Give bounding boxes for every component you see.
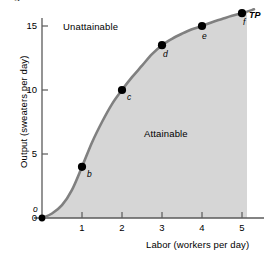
unattainable-region-label: Unattainable bbox=[63, 22, 118, 32]
data-point-e bbox=[198, 22, 206, 30]
data-point-c bbox=[118, 86, 126, 94]
x-tick-label-5: 5 bbox=[235, 223, 249, 233]
y-tick-label-0: 0 bbox=[19, 213, 37, 223]
data-point-d bbox=[158, 41, 166, 49]
data-point-label-f: f bbox=[243, 18, 245, 27]
x-tick-label-2: 2 bbox=[115, 223, 129, 233]
x-axis-title: Labor (workers per day) bbox=[146, 240, 249, 250]
chart-canvas bbox=[0, 0, 274, 258]
y-tick-label-5: 5 bbox=[19, 149, 37, 159]
data-point-b bbox=[78, 163, 86, 171]
total-product-curve-figure: g Output (sweaters per day) Labor (worke… bbox=[0, 0, 274, 258]
attainable-region-label: Attainable bbox=[144, 129, 188, 139]
data-point-label-b: b bbox=[87, 170, 92, 179]
y-tick-label-15: 15 bbox=[19, 21, 37, 31]
x-tick-label-3: 3 bbox=[155, 223, 169, 233]
tp-series-label: TP bbox=[249, 11, 261, 20]
x-tick-label-4: 4 bbox=[195, 223, 209, 233]
data-point-label-e: e bbox=[202, 32, 207, 41]
data-point-o bbox=[39, 215, 46, 222]
data-point-label-c: c bbox=[127, 93, 131, 102]
y-tick-label-10: 10 bbox=[19, 85, 37, 95]
data-point-label-o: o bbox=[33, 205, 38, 214]
y-axis-title: Output (sweaters per day) bbox=[19, 37, 29, 187]
data-point-label-d: d bbox=[163, 50, 168, 59]
data-point-f bbox=[238, 9, 246, 17]
x-tick-label-1: 1 bbox=[75, 223, 89, 233]
